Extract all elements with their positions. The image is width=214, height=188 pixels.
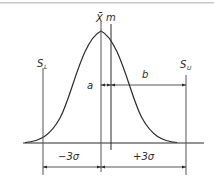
top-rule <box>0 2 214 4</box>
a-arrow-right-icon <box>107 84 111 87</box>
plus-3sigma-label: +3σ <box>133 151 155 162</box>
minus-3sigma-arrow-left-icon <box>43 166 47 169</box>
plus-3sigma-arrow-left-icon <box>101 166 105 169</box>
b-arrow-left-icon <box>111 84 115 87</box>
lower-spec-label: S <box>37 58 44 69</box>
minus-3sigma-arrow-right-icon <box>97 166 101 169</box>
a-arrow-left-icon <box>101 84 105 87</box>
upper-spec-label: S <box>180 59 187 70</box>
process-capability-diagram: X̄ m S L S U a b −3σ +3σ <box>0 0 214 188</box>
a-label: a <box>87 80 93 91</box>
minus-3sigma-label: −3σ <box>58 151 80 162</box>
center-label: m <box>106 12 116 23</box>
upper-spec-subscript: U <box>187 64 192 71</box>
b-label: b <box>142 69 148 80</box>
lower-spec-subscript: L <box>44 63 47 70</box>
plus-3sigma-arrow-right-icon <box>182 166 186 169</box>
b-arrow-right-icon <box>182 84 186 87</box>
mean-label: X̄ <box>95 12 104 24</box>
